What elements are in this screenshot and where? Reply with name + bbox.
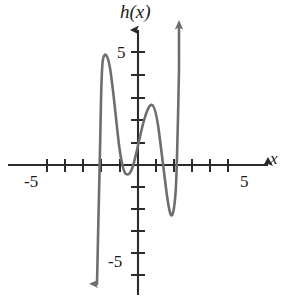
graph-figure: h(x) x -5 5 5 -5 [0,0,291,307]
y-tick-label-neg5: -5 [108,253,122,270]
x-tick-label-pos5: 5 [240,173,249,190]
plot-canvas [0,0,291,307]
x-axis-label: x [270,150,278,167]
y-tick-label-pos5: 5 [117,44,126,61]
x-tick-label-neg5: -5 [24,173,38,190]
y-axis-label: h(x) [120,2,151,21]
